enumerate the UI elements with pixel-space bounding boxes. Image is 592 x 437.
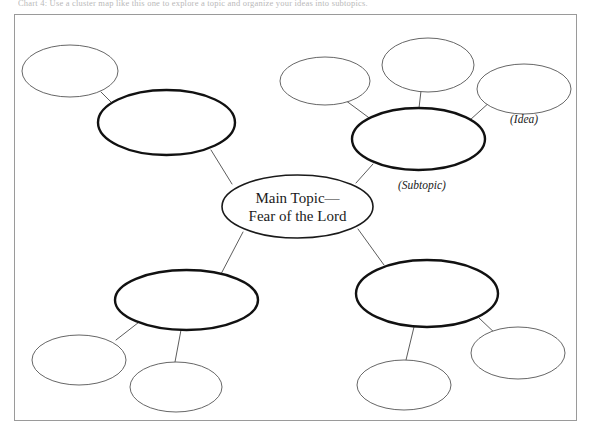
oval-idea-ur-3[interactable] [477,64,571,114]
oval-idea-ll-2[interactable] [130,362,222,412]
oval-idea-lr-1[interactable] [357,360,451,410]
connector-line [211,150,232,184]
connector-line [175,330,181,362]
connector-line [356,164,373,183]
oval-subtopic-lower-left[interactable] [115,270,258,330]
oval-center[interactable] [222,175,373,238]
connector-line [358,229,384,265]
oval-idea-ul-1[interactable] [22,45,118,97]
connector-line [419,91,421,108]
connector-line [345,100,372,120]
worksheet-page: Chart 4: Use a cluster map like this one… [0,0,592,437]
oval-idea-ur-2[interactable] [382,38,474,92]
oval-subtopic-upper-left[interactable] [98,90,235,155]
oval-idea-ll-1[interactable] [32,335,126,385]
oval-idea-ur-1[interactable] [280,57,370,105]
oval-subtopic-lower-right[interactable] [356,260,498,327]
connector-line [101,92,112,103]
oval-subtopic-upper-right[interactable] [352,108,485,170]
connector-line [406,327,414,360]
connector-line [221,232,243,274]
oval-idea-lr-2[interactable] [471,327,565,379]
cluster-map-canvas [0,0,592,437]
oval-nodes-group [22,38,571,412]
